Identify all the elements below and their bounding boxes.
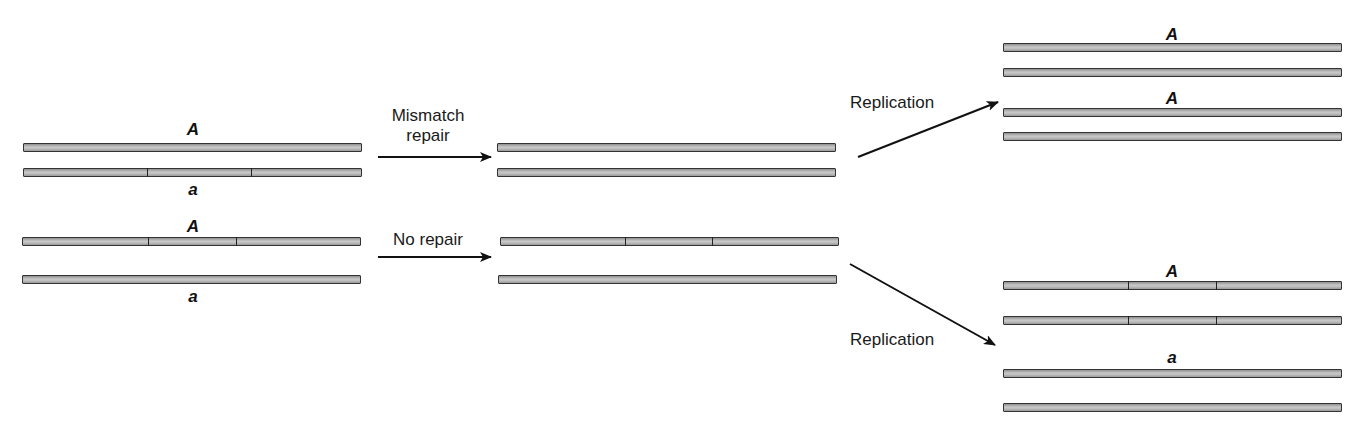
dna-strand [23, 143, 362, 152]
dna-strand [498, 275, 837, 284]
segment-divider [625, 237, 626, 246]
mismatch-repair-caption: Mismatch repair [378, 106, 478, 146]
segment-divider [1128, 281, 1129, 290]
dna-strand [1003, 369, 1342, 378]
dna-strand-mismatch [1003, 281, 1342, 290]
allele-label: A [1162, 263, 1182, 280]
segment-divider [236, 237, 237, 246]
dna-strand [1003, 403, 1342, 412]
dna-strand-mismatch [500, 237, 839, 246]
allele-label: A [183, 218, 203, 235]
replication-top-caption: Replication [850, 93, 934, 113]
dna-strand-repaired [497, 143, 836, 152]
allele-label: A [1162, 90, 1182, 107]
segment-divider [148, 237, 149, 246]
segment-divider [147, 168, 148, 177]
dna-strand [1003, 68, 1342, 77]
segment-divider [1216, 316, 1217, 325]
segment-divider [1216, 281, 1217, 290]
allele-label: a [183, 288, 203, 305]
dna-strand [1003, 132, 1342, 141]
dna-strand-mismatch [22, 237, 361, 246]
allele-label: A [1162, 26, 1182, 43]
segment-divider [1128, 316, 1129, 325]
dna-strand [22, 275, 361, 284]
segment-divider [712, 237, 713, 246]
dna-strand-mismatch [1003, 316, 1342, 325]
dna-strand [1003, 43, 1342, 52]
dna-strand-mismatch [23, 168, 362, 177]
segment-divider [251, 168, 252, 177]
dna-strand [1003, 108, 1342, 117]
allele-label: a [1162, 349, 1182, 366]
dna-strand-repaired [497, 168, 836, 177]
allele-label: a [183, 181, 203, 198]
no-repair-caption: No repair [378, 230, 478, 250]
allele-label: A [183, 121, 203, 138]
replication-bottom-caption: Replication [850, 330, 934, 350]
